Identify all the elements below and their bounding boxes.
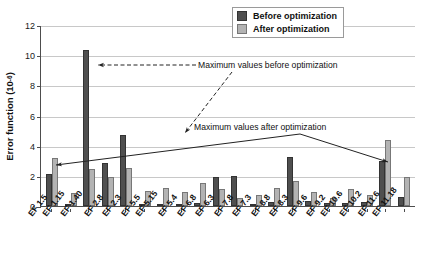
y-axis-title-close: ) xyxy=(4,72,15,75)
x-axis-labels: EF 1.5EF 1.15EF 1.40EF 2.8EF 2.3EF 5.5EF… xyxy=(40,209,415,271)
bar-group xyxy=(247,26,266,206)
x-axis-label-item: EF 11.18 xyxy=(394,209,413,271)
bars-layer xyxy=(41,26,415,206)
x-axis-label-item: EF 10.6 xyxy=(339,209,358,271)
x-axis-label-item: EF 9.2 xyxy=(320,209,339,271)
y-axis-title-exponent: -6 xyxy=(6,75,13,81)
x-axis-label-item: EF 6.8 xyxy=(190,209,209,271)
bar-after-optimization xyxy=(404,177,410,206)
bar-group xyxy=(191,26,210,206)
x-axis-label-item: EF 11.6 xyxy=(376,209,395,271)
annotation-max-before: Maximum values before optimization xyxy=(198,60,337,70)
bar-group xyxy=(284,26,303,206)
bar-group xyxy=(376,26,395,206)
legend-swatch-after-icon xyxy=(237,24,247,34)
x-axis-label-item: EF 8.3 xyxy=(283,209,302,271)
x-axis-label-item: EF 5.4 xyxy=(172,209,191,271)
x-axis-label-item: EF 7.3 xyxy=(246,209,265,271)
bar-group xyxy=(321,26,340,206)
bar-group xyxy=(154,26,173,206)
x-axis-label-item: EF 7.8 xyxy=(227,209,246,271)
legend-item-before: Before optimization xyxy=(237,11,337,21)
x-axis-label-item: EF 1.5 xyxy=(42,209,61,271)
x-axis-tick-mark xyxy=(404,209,405,212)
legend-item-after: After optimization xyxy=(237,24,337,34)
bar-group xyxy=(43,26,62,206)
bar-group xyxy=(136,26,155,206)
y-axis-tick-label: 12 xyxy=(25,21,35,31)
plot-area: 024681012 xyxy=(40,26,415,207)
x-axis-label-item: EF 2.8 xyxy=(98,209,117,271)
y-axis-tick-label: 6 xyxy=(30,112,35,122)
x-axis-label-item: EF 10.2 xyxy=(357,209,376,271)
bar-group xyxy=(228,26,247,206)
y-axis-title: Error function (10-6) xyxy=(2,26,16,207)
x-axis-label-item: EF 5.5 xyxy=(135,209,154,271)
x-axis-label-item: EF 8.8 xyxy=(265,209,284,271)
x-axis-label-item: EF 1.40 xyxy=(79,209,98,271)
bar-group xyxy=(173,26,192,206)
x-axis-label-item: EF 1.15 xyxy=(61,209,80,271)
legend-label-before: Before optimization xyxy=(253,11,337,21)
bar-group xyxy=(339,26,358,206)
y-axis-tick-label: 8 xyxy=(30,81,35,91)
y-axis-tick-label: 4 xyxy=(30,142,35,152)
x-axis-tick-mark xyxy=(385,209,386,212)
bar-group xyxy=(117,26,136,206)
legend-label-after: After optimization xyxy=(253,24,330,34)
legend-swatch-before-icon xyxy=(237,11,247,21)
y-axis-title-base: Error function (10 xyxy=(4,81,15,161)
bar-group xyxy=(80,26,99,206)
x-axis-label-item: EF 5.15 xyxy=(153,209,172,271)
bar-group xyxy=(265,26,284,206)
bar-chart-figure: Error function (10-6) 024681012 EF 1.5EF… xyxy=(0,0,437,271)
bar-group xyxy=(99,26,118,206)
x-axis-label-item: EF 9.6 xyxy=(302,209,321,271)
y-axis-tick-label: 10 xyxy=(25,51,35,61)
bar-group xyxy=(210,26,229,206)
bar-group xyxy=(62,26,81,206)
bar-group xyxy=(358,26,377,206)
x-axis-label-item: EF 2.3 xyxy=(116,209,135,271)
y-axis-tick-label: 2 xyxy=(30,172,35,182)
bar-group xyxy=(395,26,414,206)
bar-group xyxy=(302,26,321,206)
annotation-max-after: Maximum values after optimization xyxy=(194,122,326,132)
legend: Before optimization After optimization xyxy=(232,7,344,38)
x-axis-label-item: EF 6.3 xyxy=(209,209,228,271)
